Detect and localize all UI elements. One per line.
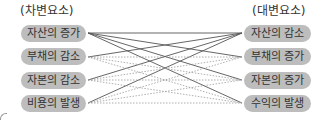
- debit-item-equity-decrease: 자본의 감소: [21, 72, 86, 89]
- solid-connections: [88, 33, 242, 103]
- credit-item-revenue-occurrence: 수익의 발생: [244, 95, 311, 112]
- credit-item-liability-increase: 부채의 증가: [244, 48, 311, 65]
- credit-item-asset-decrease: 자산의 감소: [244, 25, 311, 42]
- debit-item-asset-increase: 자산의 증가: [21, 25, 86, 42]
- credit-item-equity-increase: 자본의 증가: [244, 72, 311, 89]
- debit-item-expense-occurrence: 비용의 발생: [21, 95, 86, 112]
- dotted-connections: [88, 57, 242, 103]
- corner-artifact: [0, 113, 7, 120]
- debit-item-liability-decrease: 부채의 감소: [21, 48, 86, 65]
